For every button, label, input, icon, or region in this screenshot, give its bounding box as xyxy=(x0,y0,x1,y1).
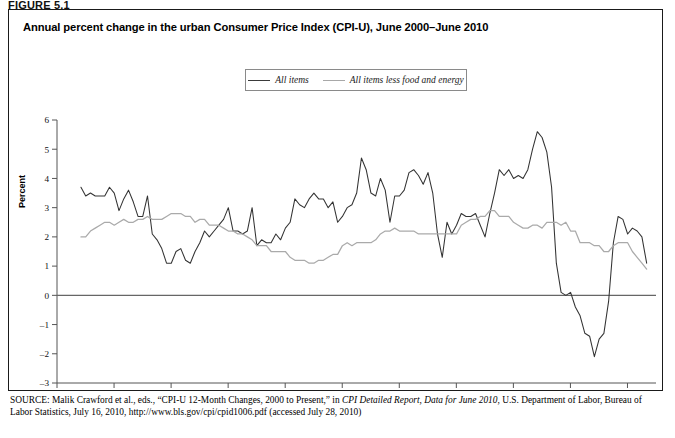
source-prefix: SOURCE: xyxy=(10,395,50,405)
series-line-all-items xyxy=(81,132,647,357)
svg-text:2002: 2002 xyxy=(162,391,181,392)
svg-text:–2: –2 xyxy=(39,349,50,359)
svg-text:6: 6 xyxy=(44,115,49,125)
svg-text:2: 2 xyxy=(44,232,49,242)
source-italic-title: CPI Detailed Report, Data for June 2010 xyxy=(342,395,497,405)
chart-plot-area: Percent –3–2–101234562000200120022003200… xyxy=(9,10,664,392)
y-axis-title: Percent xyxy=(17,175,27,208)
svg-text:2006: 2006 xyxy=(390,391,409,392)
figure-number-label: FIGURE 5.1 xyxy=(8,0,70,9)
svg-text:2009: 2009 xyxy=(561,391,580,392)
svg-text:0: 0 xyxy=(44,291,49,301)
svg-text:2003: 2003 xyxy=(219,391,238,392)
svg-text:–1: –1 xyxy=(39,320,50,330)
svg-text:2004: 2004 xyxy=(276,391,295,392)
svg-text:3: 3 xyxy=(44,203,49,213)
figure-root: FIGURE 5.1 Annual percent change in the … xyxy=(0,0,675,438)
source-text-b: , U.S. Department of xyxy=(497,395,575,405)
svg-text:2007: 2007 xyxy=(447,391,466,392)
svg-text:1: 1 xyxy=(44,261,49,271)
svg-text:4: 4 xyxy=(44,174,49,184)
svg-text:–3: –3 xyxy=(39,378,50,388)
figure-box: Annual percent change in the urban Consu… xyxy=(8,9,663,391)
source-note: SOURCE: Malik Crawford et al., eds., “CP… xyxy=(10,394,660,418)
svg-text:2010: 2010 xyxy=(618,391,637,392)
svg-text:2000: 2000 xyxy=(48,391,67,392)
svg-text:2001: 2001 xyxy=(105,391,124,392)
cpi-line-chart: –3–2–10123456200020012002200320042005200… xyxy=(9,10,664,392)
source-text-a: Malik Crawford et al., eds., “CPI-U 12-M… xyxy=(50,395,342,405)
svg-text:2008: 2008 xyxy=(504,391,523,392)
svg-text:2005: 2005 xyxy=(333,391,352,392)
svg-text:5: 5 xyxy=(44,145,49,155)
